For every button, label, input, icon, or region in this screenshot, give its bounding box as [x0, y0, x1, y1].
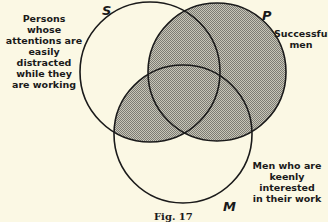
letter-s: S [102, 3, 111, 18]
label-p: Successful men [274, 28, 328, 50]
label-m-line: in their work [246, 193, 328, 204]
label-p-line: men [274, 39, 328, 50]
letter-p: P [262, 8, 272, 23]
label-s-line: while they [4, 68, 84, 79]
label-s-line: Persons whose [4, 13, 84, 35]
label-m-line: keenly interested [246, 171, 328, 193]
label-p-line: Successful [274, 28, 328, 39]
letter-m: M [223, 199, 236, 214]
figure-caption: Fig. 17 [154, 211, 193, 222]
label-m: Men who are keenly interested in their w… [246, 160, 328, 204]
label-m-line: Men who are [246, 160, 328, 171]
label-s-line: easily distracted [4, 46, 84, 68]
label-s-line: are working [4, 79, 84, 90]
label-s: Persons whose attentions are easily dist… [4, 13, 84, 90]
label-s-line: attentions are [4, 35, 84, 46]
